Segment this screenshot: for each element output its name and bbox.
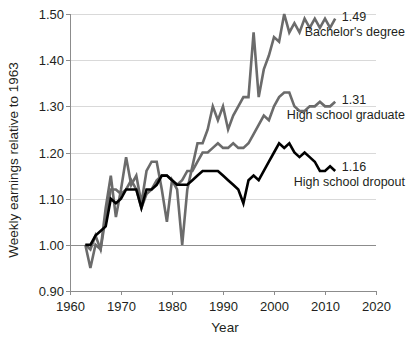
x-axis-title: Year [211,320,239,335]
series-end-value: 1.31 [342,93,366,107]
series-line-high-school-dropout [85,143,335,245]
x-tick-label: 1980 [158,299,187,314]
chart-figure: 0.901.001.101.201.301.401.50 19601970198… [0,0,413,340]
x-tick-label: 2010 [311,299,340,314]
data-series-group [85,14,335,268]
series-name-label: High school dropout [294,175,406,189]
x-axis-tickmarks [66,15,377,296]
y-axis-title: Weekly earnings relative to 1963 [6,62,21,258]
y-tick-label: 0.90 [39,284,64,299]
series-end-value: 1.16 [342,160,366,174]
line-chart: 0.901.001.101.201.301.401.50 19601970198… [0,0,413,340]
x-tick-label: 1960 [56,299,85,314]
y-tick-label: 1.40 [39,53,64,68]
y-tick-label: 1.20 [39,146,64,161]
y-tick-label: 1.50 [39,7,64,22]
y-tick-label: 1.10 [39,192,64,207]
x-axis-tick-labels: 1960197019801990200020102020 [56,299,391,314]
x-tick-label: 2020 [362,299,391,314]
x-tick-label: 1970 [107,299,136,314]
series-line-bachelor-s-degree [85,14,335,268]
gridlines-group [70,14,376,292]
series-name-label: High school graduate [287,108,405,122]
series-labels-group: 1.49Bachelor's degree1.31High school gra… [287,10,406,189]
series-end-value: 1.49 [342,10,366,24]
series-name-label: Bachelor's degree [305,25,405,39]
y-tick-label: 1.30 [39,99,64,114]
x-tick-label: 2000 [260,299,289,314]
y-tick-label: 1.00 [39,238,64,253]
x-tick-label: 1990 [209,299,238,314]
y-axis-tick-labels: 0.901.001.101.201.301.401.50 [39,7,64,299]
